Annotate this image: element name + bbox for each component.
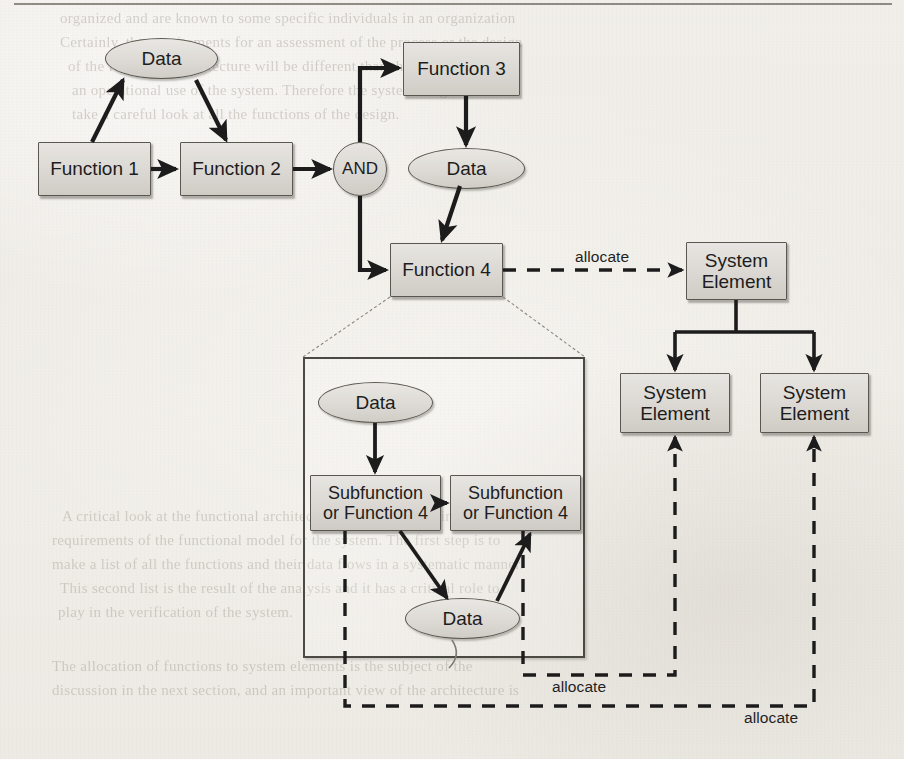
node-function-1[interactable]: Function 1 xyxy=(38,142,151,196)
node-label-wrap: Subfunctionor Function 4 xyxy=(320,483,431,523)
node-data-top[interactable]: Data xyxy=(105,38,218,79)
node-label-line2: or Function 4 xyxy=(460,503,571,523)
node-label: Subfunction xyxy=(320,483,431,503)
edge-data-to-function2 xyxy=(196,80,226,140)
node-label: Function 1 xyxy=(47,158,142,179)
node-label-wrap: AND xyxy=(339,159,381,178)
node-label: Data xyxy=(439,608,485,629)
node-label-wrap: Function 4 xyxy=(399,259,494,280)
node-label: Function 3 xyxy=(414,58,509,79)
node-label: System xyxy=(699,250,775,271)
node-label-wrap: Data xyxy=(443,158,489,179)
node-system-element-left[interactable]: SystemElement xyxy=(620,373,730,433)
node-label: System xyxy=(777,382,853,403)
edge-label-allocate-subright: allocate xyxy=(552,678,606,696)
node-label: Function 2 xyxy=(189,158,284,179)
leader-line-left xyxy=(303,297,390,357)
node-label-wrap: Data xyxy=(138,48,184,69)
edge-data-to-function4 xyxy=(442,186,460,240)
node-label-line2: Element xyxy=(637,403,713,424)
node-label-wrap: SystemElement xyxy=(637,382,713,425)
node-data-sub-in[interactable]: Data xyxy=(318,382,433,423)
node-label: AND xyxy=(339,159,381,178)
leader-line-right xyxy=(503,297,585,357)
node-label-wrap: Data xyxy=(352,392,398,413)
node-label-wrap: SystemElement xyxy=(699,250,775,293)
node-label: Function 4 xyxy=(399,259,494,280)
node-label-line2: Element xyxy=(777,403,853,424)
node-label: System xyxy=(637,382,713,403)
ghost-text-line: take a careful look at all the functions… xyxy=(72,106,400,123)
ghost-text-line: discussion in the next section, and an i… xyxy=(52,682,519,699)
node-label-wrap: Function 2 xyxy=(189,158,284,179)
diagram-canvas: organized and are known to some specific… xyxy=(0,0,904,759)
ghost-text-line: play in the verification of the system. xyxy=(58,604,293,621)
node-label: Data xyxy=(138,48,184,69)
node-label-wrap: Subfunctionor Function 4 xyxy=(460,483,571,523)
node-label-wrap: Function 1 xyxy=(47,158,142,179)
edge-label-allocate-subleft: allocate xyxy=(744,709,798,727)
node-label-wrap: Function 3 xyxy=(414,58,509,79)
node-system-element-right[interactable]: SystemElement xyxy=(760,373,869,433)
edge-and-to-function4 xyxy=(360,196,386,270)
page-top-rule xyxy=(14,3,892,5)
node-label: Subfunction xyxy=(460,483,571,503)
ghost-text-line: organized and are known to some specific… xyxy=(60,10,516,27)
node-data-sub-out[interactable]: Data xyxy=(405,598,520,639)
node-label-wrap: Data xyxy=(439,608,485,629)
edge-and-to-function3 xyxy=(360,68,399,142)
node-label: Data xyxy=(443,158,489,179)
node-subfunction-right[interactable]: Subfunctionor Function 4 xyxy=(450,475,581,531)
node-data-fn3[interactable]: Data xyxy=(408,148,525,189)
node-label-line2: Element xyxy=(699,271,775,292)
node-label: Data xyxy=(352,392,398,413)
node-subfunction-left[interactable]: Subfunctionor Function 4 xyxy=(310,475,441,531)
node-and-gate[interactable]: AND xyxy=(333,142,387,196)
edge-function1-to-data xyxy=(92,80,123,142)
edge-label-allocate-fn4: allocate xyxy=(575,248,629,266)
node-function-2[interactable]: Function 2 xyxy=(180,142,293,196)
node-function-4[interactable]: Function 4 xyxy=(390,243,503,297)
node-system-element-top[interactable]: SystemElement xyxy=(686,242,787,300)
ghost-text-line: The allocation of functions to system el… xyxy=(52,658,473,675)
node-label-wrap: SystemElement xyxy=(777,382,853,425)
node-label-line2: or Function 4 xyxy=(320,503,431,523)
node-function-3[interactable]: Function 3 xyxy=(403,42,520,96)
